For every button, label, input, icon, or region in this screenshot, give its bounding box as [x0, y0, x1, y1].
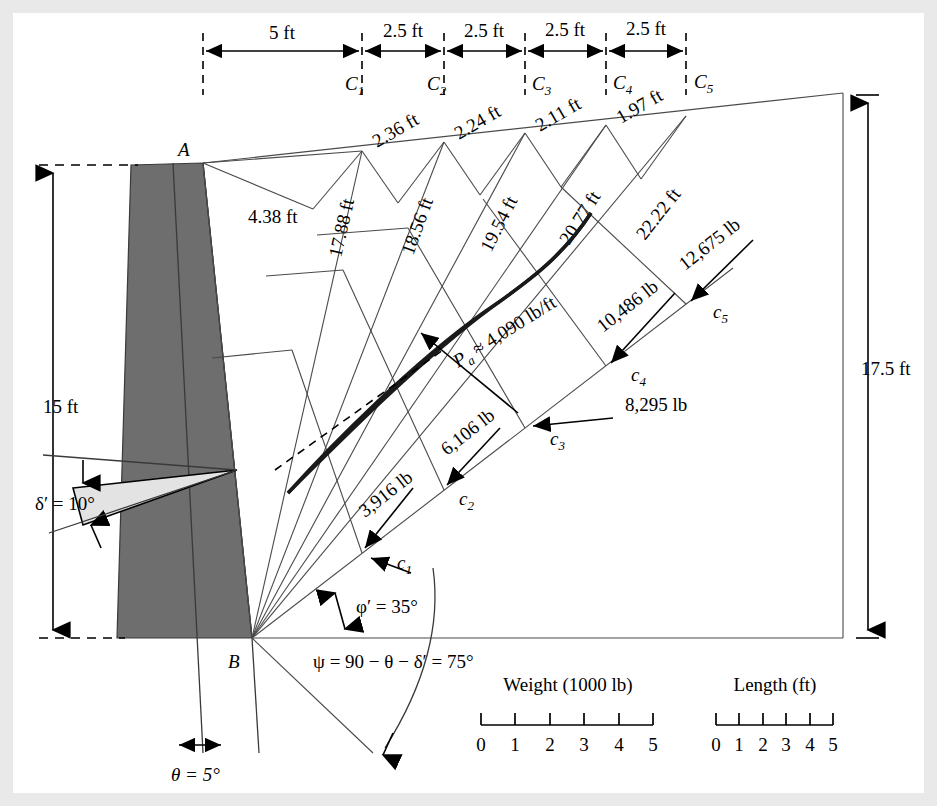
label-height-left: 15 ft: [43, 396, 79, 417]
force-polygon-points: 3,916 lb 6,106 lb 8,295 lb 10,486 lb 12,…: [355, 213, 753, 577]
label-C4: C4: [613, 72, 633, 97]
slice-width-2: 2.11 ft: [532, 92, 585, 135]
label-c1: c1: [397, 552, 412, 577]
radial-length-labels: 17.88 ft 18.56 ft 19.54 ft 20.77 ft 22.2…: [324, 183, 685, 259]
length-tick-5: 5: [828, 734, 838, 755]
radial-length-3: 20.77 ft: [555, 187, 605, 249]
length-scale: Length (ft) 0 1 2 3 4 5: [711, 674, 838, 755]
label-height-right: 17.5 ft: [861, 358, 911, 379]
length-tick-0: 0: [711, 734, 721, 755]
culmann-diagram: 5 ft 2.5 ft 2.5 ft 2.5 ft 2.5 ft C1 C2 C…: [13, 13, 924, 793]
radial-length-2: 19.54 ft: [476, 192, 522, 255]
weight-tick-2: 2: [545, 734, 555, 755]
length-tick-3: 3: [781, 734, 791, 755]
radial-length-4: 22.22 ft: [632, 183, 685, 243]
weight-label-0: 3,916 lb: [355, 466, 417, 521]
weight-scale-title: Weight (1000 lb): [503, 674, 632, 696]
label-c5: c5: [713, 301, 728, 326]
right-height-dimension: 17.5 ft: [856, 95, 911, 638]
weight-tick-3: 3: [579, 734, 589, 755]
label-c4: c4: [631, 364, 646, 389]
label-delta: δ′ = 10°: [35, 493, 95, 514]
label-C5: C5: [694, 71, 714, 96]
dim-label-2: 2.5 ft: [464, 20, 505, 41]
weight-scale: Weight (1000 lb) 0 1 2 3 4 5: [476, 674, 658, 755]
length-scale-title: Length (ft): [734, 674, 817, 696]
trial-failure-planes: [203, 116, 686, 638]
weight-label-4: 12,675 lb: [675, 213, 744, 274]
label-resultant: Pa ≈ 4,090 lb/ft: [448, 291, 562, 375]
label-c3: c3: [550, 428, 565, 453]
label-phi: φ′ = 35°: [356, 596, 418, 617]
backfill-outline: [203, 93, 843, 638]
weight-tick-1: 1: [510, 734, 520, 755]
figure-page: 5 ft 2.5 ft 2.5 ft 2.5 ft 2.5 ft C1 C2 C…: [0, 0, 937, 806]
figure-frame: 5 ft 2.5 ft 2.5 ft 2.5 ft 2.5 ft C1 C2 C…: [13, 13, 924, 793]
dim-label-0: 5 ft: [269, 22, 296, 43]
culmann-curve: [275, 213, 591, 493]
radial-length-1: 18.56 ft: [397, 194, 437, 257]
label-c2: c2: [459, 488, 474, 513]
length-tick-2: 2: [758, 734, 768, 755]
weight-arrows: [365, 240, 753, 573]
length-tick-1: 1: [734, 734, 744, 755]
label-psi: ψ = 90 − θ − δ′ = 75°: [313, 651, 474, 672]
slice-width-labels: 2.36 ft 2.24 ft 2.11 ft 1.97 ft: [369, 84, 667, 151]
dim-label-4: 2.5 ft: [626, 18, 667, 39]
length-tick-4: 4: [805, 734, 815, 755]
angle-annotations: φ′ = 35° ψ = 90 − θ − δ′ = 75°: [252, 568, 474, 755]
weight-label-3: 10,486 lb: [593, 275, 662, 336]
label-theta: θ = 5°: [171, 764, 220, 785]
wedge-tie-lines: [203, 116, 686, 209]
weight-tick-0: 0: [476, 734, 486, 755]
label-top-slope-length: 4.38 ft: [248, 206, 298, 227]
dim-label-3: 2.5 ft: [545, 19, 586, 40]
tangent-dashed-line: [275, 350, 443, 470]
slice-width-1: 2.24 ft: [451, 100, 505, 143]
label-C3: C3: [532, 73, 552, 98]
label-point-A: A: [176, 139, 190, 160]
label-point-B: B: [228, 651, 240, 672]
weight-tick-4: 4: [614, 734, 624, 755]
theta-annotation: θ = 5°: [171, 745, 221, 785]
radial-length-0: 17.88 ft: [324, 196, 358, 259]
weight-label-1: 6,106 lb: [437, 404, 499, 459]
dim-label-1: 2.5 ft: [383, 20, 424, 41]
slice-width-0: 2.36 ft: [369, 108, 423, 151]
weight-label-2: 8,295 lb: [625, 394, 687, 415]
weight-tick-5: 5: [648, 734, 658, 755]
